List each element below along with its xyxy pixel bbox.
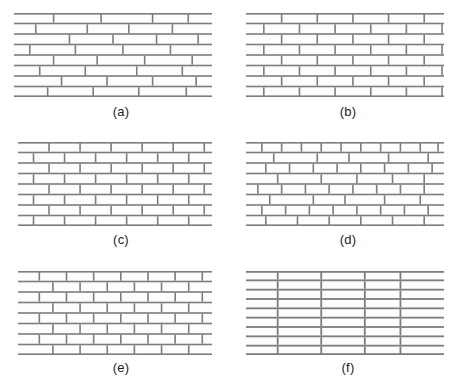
- head-joint: [328, 216, 330, 225]
- head-joint: [328, 185, 330, 194]
- head-joint: [408, 164, 410, 173]
- panel-a-irregular-random-bond: [14, 13, 212, 97]
- head-joint: [370, 87, 372, 96]
- head-joint: [273, 153, 275, 162]
- head-joint: [309, 206, 311, 215]
- bed-joint: [14, 23, 212, 25]
- bed-joint: [18, 323, 212, 325]
- head-joint: [39, 335, 41, 344]
- head-joint: [406, 45, 408, 54]
- bed-joint: [18, 333, 212, 335]
- head-joint: [364, 337, 366, 345]
- head-joint: [316, 77, 318, 86]
- head-joint: [147, 314, 149, 323]
- bed-joint: [246, 326, 444, 328]
- bed-joint: [246, 173, 444, 175]
- head-joint: [352, 77, 354, 86]
- head-joint: [400, 309, 402, 317]
- head-joint: [263, 45, 265, 54]
- head-joint: [33, 153, 35, 162]
- head-joint: [384, 164, 386, 173]
- head-joint: [188, 303, 190, 312]
- head-joint: [64, 216, 66, 225]
- head-joint: [126, 195, 128, 204]
- head-joint: [299, 66, 301, 75]
- head-joint: [161, 324, 163, 333]
- head-joint: [174, 314, 176, 323]
- head-joint: [441, 24, 443, 33]
- head-joint: [320, 291, 322, 299]
- bed-joint: [18, 142, 212, 144]
- head-joint: [106, 282, 108, 291]
- bed-joint: [246, 335, 444, 337]
- head-joint: [400, 272, 402, 280]
- head-joint: [120, 293, 122, 302]
- head-joint: [431, 164, 433, 173]
- head-joint: [93, 314, 95, 323]
- head-joint: [427, 206, 429, 215]
- panel-f-stack-bond: [246, 271, 444, 355]
- head-joint: [281, 143, 283, 152]
- head-joint: [297, 216, 299, 225]
- head-joint: [29, 45, 31, 54]
- head-joint: [277, 328, 279, 336]
- head-joint: [156, 35, 158, 44]
- head-joint: [299, 87, 301, 96]
- head-joint: [197, 35, 199, 44]
- head-joint: [265, 164, 267, 173]
- head-joint: [423, 216, 425, 225]
- head-joint: [152, 14, 154, 23]
- head-joint: [441, 66, 443, 75]
- head-joint: [48, 164, 50, 173]
- head-joint: [364, 272, 366, 280]
- head-joint: [400, 281, 402, 289]
- head-joint: [95, 174, 97, 183]
- head-joint: [388, 14, 390, 23]
- bed-joint: [246, 183, 444, 185]
- head-joint: [141, 185, 143, 194]
- head-joint: [441, 45, 443, 54]
- head-joint: [388, 153, 390, 162]
- bed-joint: [246, 224, 444, 226]
- bed-joint: [246, 204, 444, 206]
- head-joint: [388, 77, 390, 86]
- head-joint: [33, 216, 35, 225]
- head-joint: [334, 45, 336, 54]
- head-joint: [172, 24, 174, 33]
- bed-joint: [14, 86, 212, 88]
- head-joint: [39, 314, 41, 323]
- head-joint: [161, 345, 163, 354]
- head-joint: [437, 143, 439, 152]
- head-joint: [364, 347, 366, 355]
- head-joint: [334, 87, 336, 96]
- head-joint: [52, 282, 54, 291]
- bed-joint: [14, 95, 212, 97]
- head-joint: [126, 216, 128, 225]
- head-joint: [79, 303, 81, 312]
- head-joint: [352, 185, 354, 194]
- head-joint: [406, 24, 408, 33]
- head-joint: [195, 77, 197, 86]
- head-joint: [320, 300, 322, 308]
- head-joint: [404, 206, 406, 215]
- bed-joint: [246, 23, 444, 25]
- head-joint: [110, 164, 112, 173]
- head-joint: [356, 174, 358, 183]
- head-joint: [263, 66, 265, 75]
- panel-e-uniform-running-bond: [18, 271, 212, 355]
- head-joint: [261, 143, 263, 152]
- head-joint: [188, 153, 190, 162]
- head-joint: [52, 324, 54, 333]
- brick-pattern-a: [14, 13, 212, 97]
- head-joint: [281, 185, 283, 194]
- head-joint: [392, 174, 394, 183]
- head-joint: [423, 174, 425, 183]
- head-joint: [174, 272, 176, 281]
- head-joint: [66, 272, 68, 281]
- head-joint: [388, 56, 390, 65]
- panel-caption-a: (a): [91, 104, 151, 119]
- head-joint: [263, 24, 265, 33]
- brick-pattern-c: [18, 142, 212, 226]
- head-joint: [188, 195, 190, 204]
- head-joint: [33, 195, 35, 204]
